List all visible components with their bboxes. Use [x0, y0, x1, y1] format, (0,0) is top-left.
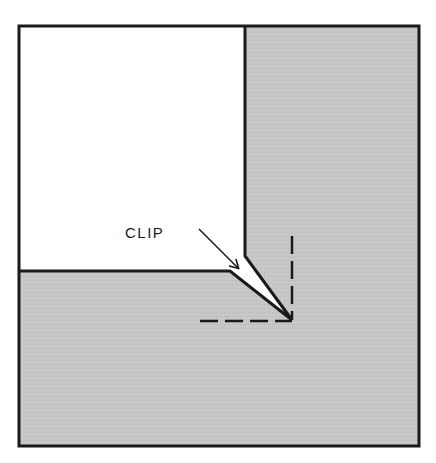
clip-label: CLIP: [125, 224, 164, 241]
clip-diagram: CLIP: [0, 0, 436, 463]
